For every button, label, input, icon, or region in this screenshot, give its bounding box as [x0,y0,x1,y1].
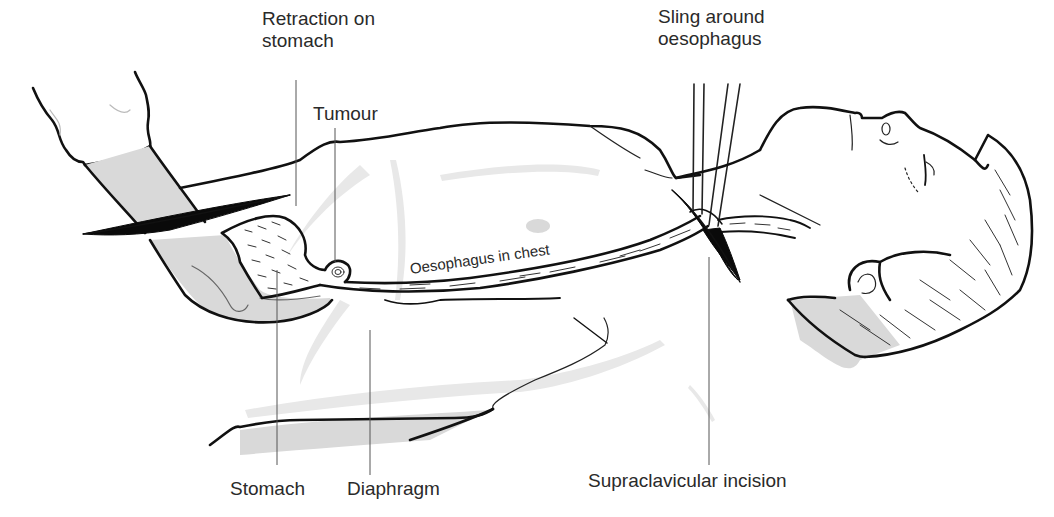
tumour [325,261,350,282]
label-retraction-on-stomach: Retraction on stomach [262,8,375,52]
rib-shading [240,160,900,455]
diagram-canvas: Retraction on stomach Tumour Sling aroun… [0,0,1054,517]
label-diaphragm: Diaphragm [347,478,440,500]
label-tumour: Tumour [313,103,378,125]
sling [690,84,740,226]
neck-incision [672,190,740,282]
label-sling-around-oesophagus: Sling around oesophagus [658,6,765,50]
leader-lines [277,80,709,475]
label-supraclavicular-incision: Supraclavicular incision [588,470,787,492]
label-stomach: Stomach [230,478,305,500]
oesophagus [320,216,810,292]
body-outline [180,123,700,189]
